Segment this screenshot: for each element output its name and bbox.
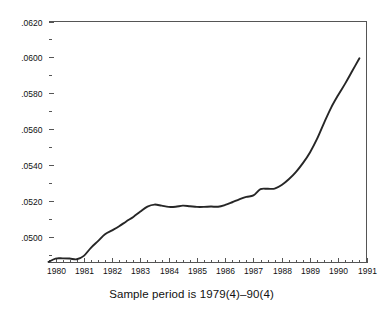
x-tick-label: 1985 — [188, 266, 207, 276]
y-tick-label: .0500 — [21, 233, 43, 243]
x-tick-label: 1981 — [75, 266, 94, 276]
y-tick-label: .0620 — [21, 18, 43, 28]
x-tick-label: 1989 — [301, 266, 320, 276]
x-tick-label: 1990 — [329, 266, 348, 276]
y-tick-label: .0520 — [21, 197, 43, 207]
line-chart: .0500.0520.0540.0560.0580.0600.0620 1980… — [0, 0, 383, 314]
x-tick-label: 1984 — [160, 266, 179, 276]
y-tick-label: .0580 — [21, 89, 43, 99]
x-tick-label: 1982 — [103, 266, 122, 276]
y-tick-label: .0560 — [21, 125, 43, 135]
x-tick-label: 1988 — [273, 266, 292, 276]
chart-caption: Sample period is 1979(4)–90(4) — [0, 288, 383, 300]
y-tick-label: .0600 — [21, 53, 43, 63]
x-tick-label: 1980 — [47, 266, 66, 276]
x-tick-label: 1986 — [216, 266, 235, 276]
x-tick-label: 1991 — [358, 266, 377, 276]
x-tick-label: 1983 — [131, 266, 150, 276]
y-tick-label: .0540 — [21, 161, 43, 171]
x-tick-label: 1987 — [244, 266, 263, 276]
